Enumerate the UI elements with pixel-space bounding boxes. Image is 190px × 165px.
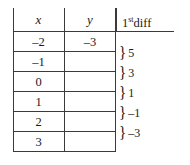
first-difference-column: }5 }3 }1 }–1 }–3 [119, 32, 183, 152]
column-divider-y-diff [116, 8, 117, 32]
cell-x: 2 [13, 112, 64, 132]
first-difference-value: 5 [128, 46, 134, 60]
first-difference-table: x y 1stdiff –2 –3 –1 0 1 2 3 }5 }3 }1 }–… [0, 0, 190, 165]
table-row: –1 [13, 52, 116, 72]
first-difference-value: –1 [128, 106, 140, 120]
cell-x: –2 [13, 32, 64, 52]
cell-y [64, 92, 116, 112]
cell-y [64, 72, 116, 92]
first-difference-entry: }–1 [119, 102, 140, 122]
first-difference-entry: }3 [119, 62, 134, 82]
table-row: 2 [13, 112, 116, 132]
first-difference-value: –3 [128, 126, 140, 140]
first-difference-entry: }5 [119, 42, 134, 62]
table-row: 3 [13, 132, 116, 152]
first-difference-entry: }1 [119, 82, 134, 102]
column-header-first-diff: 1stdiff [116, 8, 174, 32]
cell-y [64, 132, 116, 152]
header-left-rule [13, 8, 14, 32]
first-diff-word: diff [134, 16, 152, 30]
cell-y [64, 112, 116, 132]
cell-y: –3 [64, 32, 116, 52]
first-difference-entry: }–3 [119, 122, 140, 142]
cell-x: 0 [13, 72, 64, 92]
brace-icon: } [119, 121, 126, 144]
table-row: 0 [13, 72, 116, 92]
table-row: –2 –3 [13, 32, 116, 52]
cell-x: 1 [13, 92, 64, 112]
cell-x: –1 [13, 52, 64, 72]
first-difference-value: 3 [128, 66, 134, 80]
cell-x: 3 [13, 132, 64, 152]
cell-y [64, 52, 116, 72]
table-row: 1 [13, 92, 116, 112]
first-difference-value: 1 [128, 86, 134, 100]
